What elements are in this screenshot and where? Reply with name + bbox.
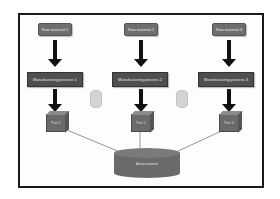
raw-material-3: Raw material 3 <box>212 23 246 36</box>
arrow-down-icon <box>48 40 62 68</box>
raw-material-2: Raw material 2 <box>124 23 158 36</box>
part-2-cube: Part 2 <box>131 114 151 132</box>
arrow-down-icon <box>222 40 236 68</box>
part-1-cube: Part 1 <box>46 114 66 132</box>
manufacturing-process-2: Manufacturing process 2 <box>112 72 168 87</box>
arrow-down-icon <box>222 89 236 113</box>
arrow-down-icon <box>134 40 148 68</box>
part-3-cube: Part 3 <box>219 114 239 132</box>
arrow-down-icon <box>48 89 62 113</box>
manufacturing-process-1: Manufacturing process 1 <box>27 72 83 87</box>
arrow-down-icon <box>134 89 148 113</box>
raw-material-1: Raw material 1 <box>38 23 72 36</box>
assessment-label: Assessment <box>114 157 180 169</box>
cylinder-icon <box>176 90 188 108</box>
connector-part-1 <box>62 128 120 152</box>
manufacturing-process-3: Manufacturing process 3 <box>198 72 254 87</box>
assessment-database: Assessment <box>114 148 180 178</box>
cylinder-icon <box>90 90 102 108</box>
